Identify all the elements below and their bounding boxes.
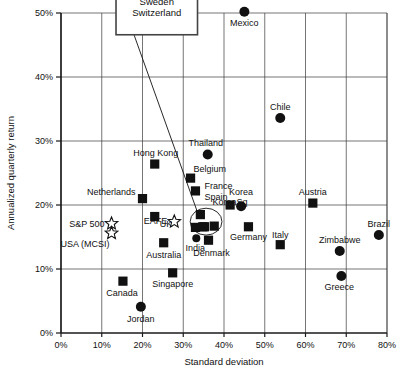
- data-point-circle-chile[interactable]: [275, 113, 285, 123]
- data-point-square-australia[interactable]: [159, 238, 168, 247]
- point-label-netherlands: Netherlands: [87, 187, 136, 197]
- data-point-square-belgium[interactable]: [186, 174, 195, 183]
- data-point-circle-india[interactable]: [192, 234, 200, 242]
- data-point-circle-zimbabwe[interactable]: [335, 246, 345, 256]
- data-point-square-italy[interactable]: [276, 240, 285, 249]
- data-point-star-usa-mcsi-[interactable]: [105, 227, 118, 239]
- point-label-thailand: Thailand: [188, 138, 223, 148]
- data-point-circle-brazil[interactable]: [374, 230, 384, 240]
- point-label-germany: Germany: [230, 232, 268, 242]
- callout-line-2: Sweden: [140, 0, 174, 7]
- y-tick-label: 40%: [35, 72, 53, 82]
- point-label-s-p-500: S&P 500: [69, 219, 104, 229]
- y-axis-title: Annualized quarterly return: [5, 116, 16, 230]
- data-point-square-denmark[interactable]: [204, 236, 213, 245]
- point-label-australia: Australia: [146, 250, 181, 260]
- x-tick-label: 60%: [296, 340, 314, 350]
- data-point-circle-greece[interactable]: [336, 271, 346, 281]
- data-point-square-singapore[interactable]: [168, 268, 177, 277]
- point-label-belgium: Belgium: [194, 164, 227, 174]
- x-tick-label: 50%: [256, 340, 274, 350]
- cluster-point-4[interactable]: [198, 222, 207, 231]
- y-tick-label: 10%: [35, 264, 53, 274]
- y-tick-label: 30%: [35, 136, 53, 146]
- x-tick-label: 10%: [93, 340, 111, 350]
- point-label-usa-mcsi-: USA (MCSI): [61, 239, 110, 249]
- data-point-circle-thailand[interactable]: [203, 149, 213, 159]
- scatter-chart: 0%10%20%30%40%50%0%10%20%30%40%50%60%70%…: [0, 0, 410, 383]
- data-point-square-france[interactable]: [191, 186, 200, 195]
- data-point-square-germany[interactable]: [244, 222, 253, 231]
- point-label-mexico: Mexico: [230, 18, 259, 28]
- data-point-square-netherlands[interactable]: [138, 194, 147, 203]
- point-label-korea: Korea: [229, 187, 253, 197]
- data-point-circle-mexico[interactable]: [239, 7, 249, 17]
- data-point-square-hong-kong[interactable]: [150, 159, 159, 168]
- point-label-hong-kong: Hong Kong: [133, 148, 178, 158]
- y-tick-label: 50%: [35, 8, 53, 18]
- data-point-square-austria[interactable]: [308, 198, 317, 207]
- x-tick-label: 40%: [215, 340, 233, 350]
- cluster-point-3[interactable]: [210, 222, 219, 231]
- callout-line-3: Switzerland: [132, 7, 181, 18]
- x-tick-label: 30%: [174, 340, 192, 350]
- point-label-jordan: Jordan: [127, 314, 155, 324]
- point-label-brazil: Brazil: [368, 219, 391, 229]
- point-label-austria: Austria: [299, 187, 327, 197]
- point-label-koreasq: KoreaSq: [213, 197, 248, 207]
- y-tick-label: 0%: [40, 328, 53, 338]
- chart-canvas: 0%10%20%30%40%50%0%10%20%30%40%50%60%70%…: [0, 0, 410, 383]
- callout-leader-line: [134, 35, 199, 218]
- data-point-circle-jordan[interactable]: [136, 302, 146, 312]
- x-axis-title: Standard deviation: [184, 356, 263, 367]
- point-label-greece: Greece: [325, 282, 355, 292]
- x-tick-label: 20%: [133, 340, 151, 350]
- point-label-eafe: EAFE: [144, 216, 168, 226]
- data-point-square-canada[interactable]: [118, 277, 127, 286]
- x-tick-label: 0%: [54, 340, 67, 350]
- point-label-chile: Chile: [270, 102, 291, 112]
- point-label-italy: Italy: [272, 230, 289, 240]
- point-label-singapore: Singapore: [152, 279, 193, 289]
- x-tick-label: 80%: [378, 340, 396, 350]
- point-label-canada: Canada: [106, 288, 138, 298]
- x-tick-label: 70%: [337, 340, 355, 350]
- y-tick-label: 20%: [35, 200, 53, 210]
- point-label-zimbabwe: Zimbabwe: [319, 235, 361, 245]
- point-label-denmark: Denmark: [193, 248, 230, 258]
